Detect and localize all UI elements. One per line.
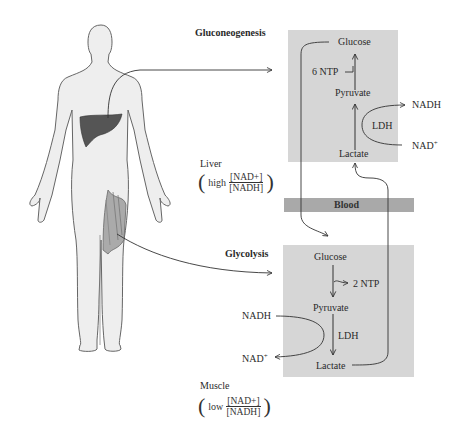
muscle-label: Muscle — [200, 380, 229, 391]
liver-label: Liver — [200, 158, 222, 169]
liver-nadh-label: NADH — [412, 99, 441, 110]
liver-pyruvate-label: Pyruvate — [335, 87, 371, 98]
liver-lactate-label: Lactate — [339, 148, 368, 159]
liver-nad-ratio: ( high [NAD+][NADH] ) — [198, 171, 274, 193]
muscle-ldh-label: LDH — [338, 330, 359, 341]
muscle-pyruvate-label: Pyruvate — [313, 302, 349, 313]
liver-ldh-label: LDH — [372, 120, 393, 131]
muscle-ntp-label: 2 NTP — [353, 278, 379, 289]
pathway-arrows — [0, 0, 462, 434]
muscle-nad-ratio: ( low [NAD+][NADH] ) — [198, 395, 271, 417]
liver-nad-label: NAD+ — [412, 139, 438, 151]
muscle-lactate-label: Lactate — [316, 360, 345, 371]
liver-ntp-label: 6 NTP — [312, 66, 338, 77]
muscle-nad-label: NAD+ — [242, 352, 268, 364]
muscle-nadh-label: NADH — [242, 310, 271, 321]
muscle-glucose-label: Glucose — [314, 251, 347, 262]
liver-glucose-label: Glucose — [338, 36, 371, 47]
